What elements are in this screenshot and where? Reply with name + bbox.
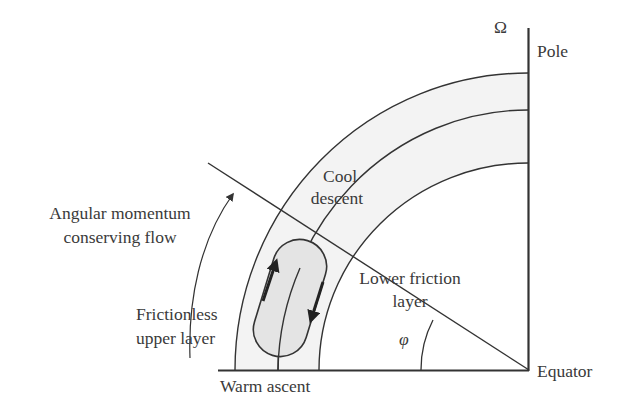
warm-ascent-label: Warm ascent <box>220 376 311 396</box>
equator-label: Equator <box>537 361 593 381</box>
omega-label: Ω <box>494 17 507 37</box>
circulation-diagram: Ω Pole Equator Cool descent Angular mome… <box>0 0 635 412</box>
angular-momentum-label-line1: Angular momentum <box>49 203 191 223</box>
lower-friction-layer-label-line1: Lower friction <box>359 268 461 288</box>
lower-friction-layer-label-line2: layer <box>393 291 428 311</box>
cool-descent-label-line2: descent <box>311 188 364 208</box>
frictionless-layer-label-line1: Frictionless <box>136 304 218 324</box>
pole-label: Pole <box>537 41 568 61</box>
angular-momentum-label-line2: conserving flow <box>63 227 177 247</box>
latitude-angle-arc <box>421 320 433 370</box>
latitude-symbol-label: φ <box>399 329 409 349</box>
cool-descent-label-line1: Cool <box>323 166 357 186</box>
frictionless-layer-label-line2: upper layer <box>136 328 215 348</box>
